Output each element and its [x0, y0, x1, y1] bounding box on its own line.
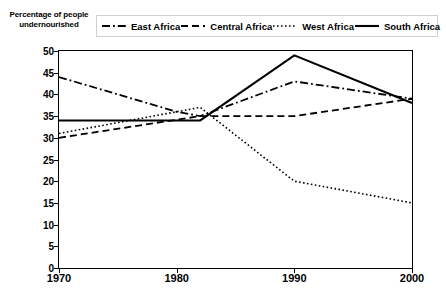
x-axis-tick-labels: 1970198019902000	[58, 272, 413, 292]
series-svg	[58, 50, 413, 269]
x-tick-label: 2000	[400, 272, 424, 284]
chart-root: Percentage of people undernourished East…	[0, 0, 446, 295]
x-tick-label: 1970	[47, 272, 71, 284]
x-tick-mark	[59, 269, 60, 273]
y-tick-label: 30	[28, 132, 54, 143]
y-tick-label: 25	[28, 154, 54, 165]
x-tick-label: 1990	[282, 272, 306, 284]
x-tick-mark	[412, 269, 413, 273]
y-axis-title: Percentage of people undernourished	[6, 10, 92, 30]
legend-item-west-africa[interactable]: West Africa	[272, 21, 354, 32]
legend-line-swatch-dotted	[272, 21, 298, 31]
y-tick-mark	[54, 160, 58, 161]
y-tick-label: 10	[28, 219, 54, 230]
legend-label: West Africa	[302, 21, 354, 32]
y-tick-label: 15	[28, 197, 54, 208]
x-tick-mark	[177, 269, 178, 273]
legend-label: South Africa	[384, 21, 440, 32]
y-tick-label: 5	[28, 241, 54, 252]
y-tick-label: 20	[28, 176, 54, 187]
y-axis-tick-labels: 50454035302520151050	[22, 50, 54, 269]
y-tick-mark	[54, 203, 58, 204]
y-tick-label: 40	[28, 89, 54, 100]
y-tick-label: 50	[28, 46, 54, 57]
y-tick-label: 35	[28, 111, 54, 122]
y-tick-mark	[54, 268, 58, 269]
chart-legend: East AfricaCentral AfricaWest AfricaSout…	[96, 15, 438, 37]
series-line-central-africa	[59, 99, 412, 138]
legend-line-swatch-dashed	[180, 21, 206, 31]
data-lines-layer	[58, 50, 413, 269]
y-tick-mark	[54, 116, 58, 117]
y-tick-mark	[54, 225, 58, 226]
legend-label: Central Africa	[210, 21, 272, 32]
y-tick-mark	[54, 246, 58, 247]
legend-label: East Africa	[131, 21, 180, 32]
y-tick-mark	[54, 73, 58, 74]
legend-line-swatch-solid	[354, 21, 380, 31]
legend-item-south-africa[interactable]: South Africa	[354, 21, 440, 32]
series-line-south-africa	[59, 55, 412, 120]
x-tick-label: 1980	[164, 272, 188, 284]
y-tick-mark	[54, 181, 58, 182]
y-tick-label: 45	[28, 67, 54, 78]
legend-item-east-africa[interactable]: East Africa	[101, 21, 180, 32]
y-tick-mark	[54, 94, 58, 95]
series-line-west-africa	[59, 107, 412, 202]
y-tick-mark	[54, 138, 58, 139]
y-tick-mark	[54, 51, 58, 52]
legend-item-central-africa[interactable]: Central Africa	[180, 21, 272, 32]
x-tick-mark	[294, 269, 295, 273]
legend-line-swatch-dash-dot	[101, 21, 127, 31]
